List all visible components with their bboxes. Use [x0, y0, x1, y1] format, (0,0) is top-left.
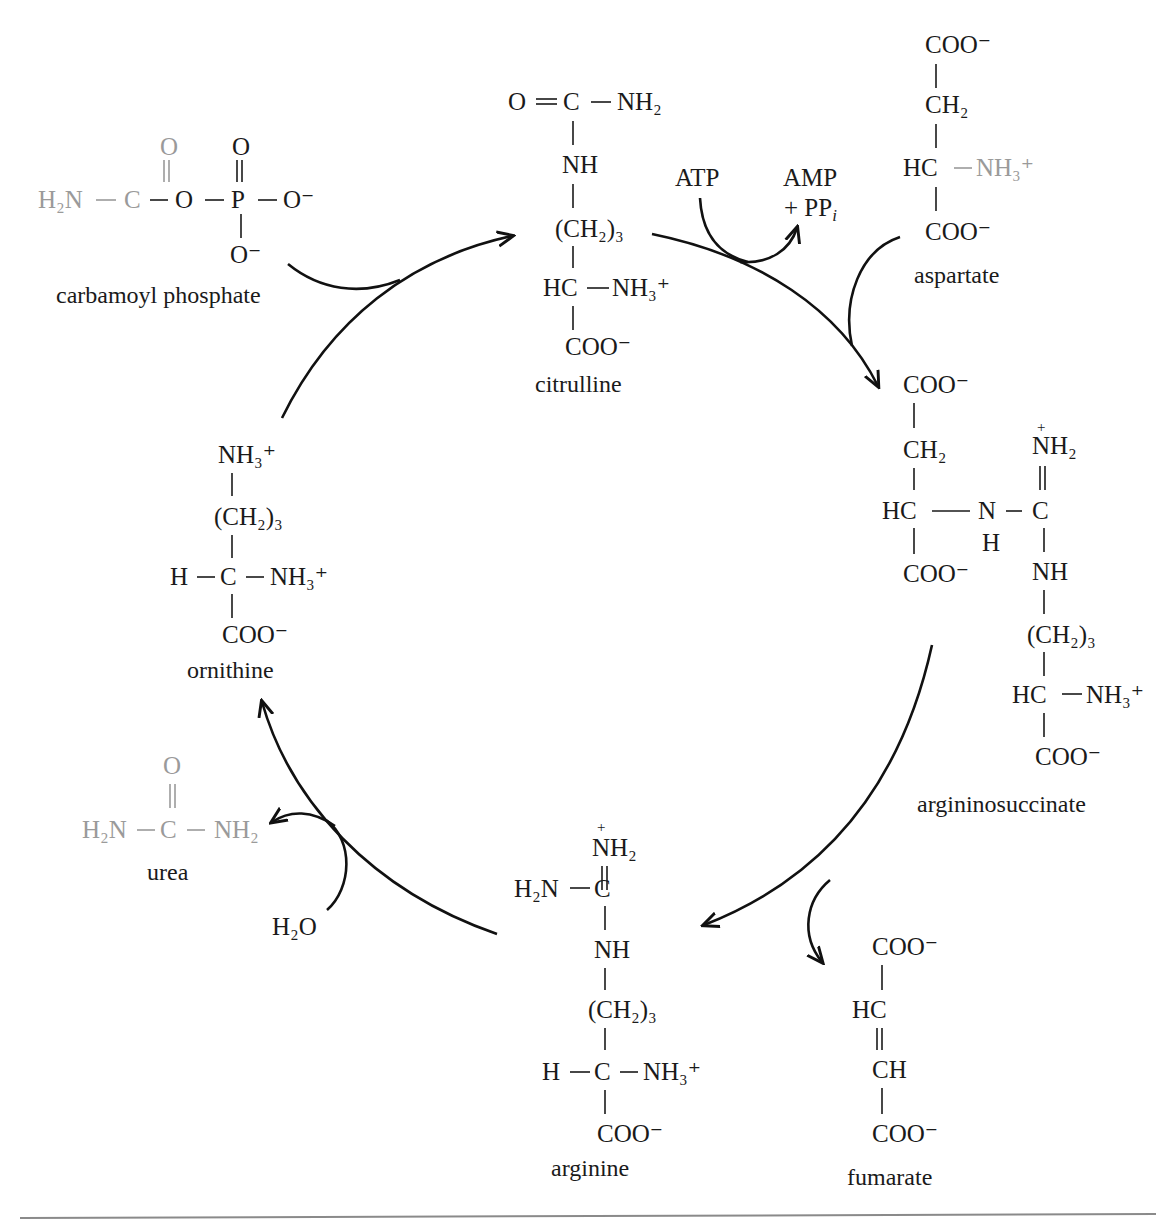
label-ppi: + PPi — [784, 194, 837, 225]
atom-h: H — [542, 1058, 560, 1085]
group-coo-minus: COO⁻ — [597, 1120, 663, 1147]
label-amp: AMP — [783, 164, 837, 191]
atom-hc: HC — [1012, 681, 1047, 708]
atom-hc: HC — [543, 274, 578, 301]
group-coo-minus: COO⁻ — [1035, 743, 1101, 770]
group-coo-minus: COO⁻ — [872, 1120, 938, 1147]
molecule-aspartate: COO⁻ CH₂ HC NH₃⁺ COO⁻ aspartate — [903, 31, 1034, 288]
atom-h2n: H₂N — [38, 186, 83, 213]
group-nh3-plus: NH₃⁺ — [976, 154, 1034, 181]
atom-o: O — [163, 752, 181, 779]
group-ch2-3: (CH₂)₃ — [588, 996, 657, 1024]
molecule-argininosuccinate: COO⁻ CH₂ HC N H C NH₂ + COO⁻ NH (CH₂)₃ H… — [882, 371, 1144, 817]
group-coo-minus: COO⁻ — [903, 371, 969, 398]
group-ch2-3: (CH₂)₃ — [1027, 621, 1096, 649]
atom-c: C — [160, 816, 177, 843]
group-ch2-3: (CH₂)₃ — [214, 503, 283, 531]
molecule-citrulline: O C NH₂ NH (CH₂)₃ HC NH₃⁺ COO⁻ citrullin… — [508, 88, 670, 397]
label-urea: urea — [147, 859, 189, 885]
molecule-fumarate: COO⁻ HC CH COO⁻ fumarate — [847, 933, 938, 1190]
atom-p: P — [231, 186, 245, 213]
group-nh3-plus: NH₃⁺ — [1086, 681, 1144, 708]
arrow-citrulline-to-argininosuccinate — [652, 234, 878, 386]
atom-nh: NH — [562, 151, 598, 178]
arrow-aspartate-in — [849, 237, 900, 346]
group-coo-minus: COO⁻ — [903, 560, 969, 587]
atom-c: C — [563, 88, 580, 115]
group-nh3-plus: NH₃⁺ — [612, 274, 670, 301]
atom-nh2: NH₂ — [617, 88, 662, 115]
group-nh2: NH₂ — [214, 816, 259, 843]
label-atp: ATP — [675, 164, 719, 191]
atom-ch: CH — [872, 1056, 907, 1083]
atom-n: N — [978, 497, 996, 524]
molecule-arginine: + NH₂ H₂N C NH (CH₂)₃ H C NH₃⁺ COO⁻ argi… — [514, 819, 701, 1181]
arrow-argininosuccinate-to-arginine — [704, 645, 932, 925]
group-coo-minus: COO⁻ — [925, 31, 991, 58]
molecule-carbamoyl-phosphate: O O H₂N C O P O⁻ O⁻ carbamoyl phosphate — [38, 133, 314, 308]
arrow-amp-ppi-out — [740, 228, 797, 262]
atom-h: H — [982, 529, 1000, 556]
atom-hc: HC — [852, 996, 887, 1023]
atom-c: C — [1032, 497, 1049, 524]
group-nh2: NH₂ — [1032, 432, 1077, 459]
molecule-urea: O H₂N C NH₂ urea — [82, 752, 259, 885]
atom-o: O — [160, 133, 178, 160]
label-water: H₂O — [272, 913, 317, 940]
arrow-urea-out — [272, 813, 335, 826]
atom-o: O — [175, 186, 193, 213]
group-coo-minus: COO⁻ — [565, 333, 631, 360]
label-citrulline: citrulline — [535, 371, 622, 397]
group-nh3-plus: NH₃⁺ — [218, 441, 276, 468]
atom-o: O — [508, 88, 526, 115]
arrow-fumarate-out — [808, 880, 830, 962]
atom-h: H — [170, 563, 188, 590]
arrow-atp-in — [700, 198, 748, 262]
group-coo-minus: COO⁻ — [872, 933, 938, 960]
arrow-arginine-to-ornithine — [262, 702, 497, 934]
group-ch2: CH₂ — [903, 436, 946, 463]
atom-hc: HC — [903, 154, 938, 181]
group-h2n: H₂N — [514, 875, 559, 902]
side-arrows — [272, 198, 900, 962]
charge-plus: + — [597, 819, 605, 835]
group-nh2: NH₂ — [592, 834, 637, 861]
label-carbamoyl-phosphate: carbamoyl phosphate — [56, 282, 261, 308]
molecule-ornithine: NH₃⁺ (CH₂)₃ H C NH₃⁺ COO⁻ ornithine — [170, 441, 328, 683]
atom-hc: HC — [882, 497, 917, 524]
atom-c: C — [594, 875, 611, 902]
group-ch2-3: (CH₂)₃ — [555, 215, 624, 243]
arrow-carbamoyl-phosphate-in — [288, 264, 400, 289]
label-aspartate: aspartate — [914, 262, 999, 288]
group-nh3-plus: NH₃⁺ — [270, 563, 328, 590]
atom-c: C — [124, 186, 141, 213]
atom-c: C — [594, 1058, 611, 1085]
group-nh3-plus: NH₃⁺ — [643, 1058, 701, 1085]
label-argininosuccinate: argininosuccinate — [917, 791, 1086, 817]
atom-nh: NH — [1032, 558, 1068, 585]
label-ornithine: ornithine — [187, 657, 274, 683]
atom-o-minus: O⁻ — [283, 186, 314, 213]
cofactor-atp-amp: ATP AMP + PPi — [675, 164, 837, 225]
atom-o: O — [232, 133, 250, 160]
urea-cycle-diagram: O O H₂N C O P O⁻ O⁻ carbamoyl phosphate … — [0, 0, 1176, 1231]
atom-o-minus: O⁻ — [230, 241, 261, 268]
group-coo-minus: COO⁻ — [222, 621, 288, 648]
bottom-divider — [20, 1214, 1156, 1218]
group-ch2: CH₂ — [925, 91, 968, 118]
label-fumarate: fumarate — [847, 1164, 932, 1190]
atom-nh: NH — [594, 936, 630, 963]
group-h2n: H₂N — [82, 816, 127, 843]
arrow-ornithine-to-citrulline — [282, 236, 512, 418]
atom-c: C — [220, 563, 237, 590]
label-arginine: arginine — [551, 1155, 629, 1181]
charge-plus: + — [1037, 419, 1045, 435]
group-coo-minus: COO⁻ — [925, 218, 991, 245]
